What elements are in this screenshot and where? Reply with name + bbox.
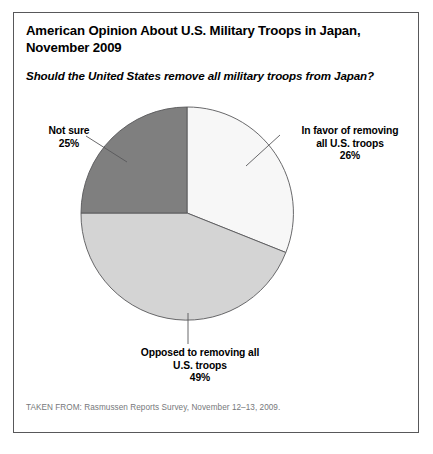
chart-subtitle: Should the United States remove all mili… — [26, 56, 396, 83]
leader-line-in-favor — [246, 135, 280, 166]
title-block: American Opinion About U.S. Military Tro… — [26, 23, 396, 83]
pie-slice-not-sure — [81, 107, 187, 213]
figure-frame: American Opinion About U.S. Military Tro… — [13, 12, 419, 433]
pie-slice-in-favor — [187, 107, 293, 253]
source-note: TAKEN FROM: Rasmussen Reports Survey, No… — [26, 403, 280, 412]
page-title: American Opinion About U.S. Military Tro… — [26, 23, 396, 56]
pie-label-in-favor: In favor of removing all U.S. troops 26% — [286, 125, 414, 163]
pie-label-not-sure: Not sure 25% — [25, 125, 113, 150]
pie-label-opposed: Opposed to removing all U.S. troops 49% — [100, 347, 300, 385]
pie-slice-opposed — [81, 213, 286, 320]
